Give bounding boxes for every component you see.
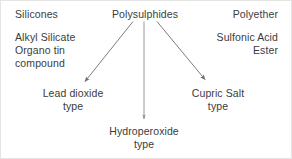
heading-polysulphides: Polysulphides xyxy=(112,8,178,21)
branch-hydroperoxide-line2: type xyxy=(109,138,179,151)
arrow-right-diagonal xyxy=(157,22,205,80)
branch-lead-dioxide-line2: type xyxy=(43,100,104,113)
left-item-compound: compound xyxy=(15,57,75,70)
branch-lead-dioxide-line1: Lead dioxide xyxy=(43,87,104,100)
branch-label-hydroperoxide: Hydroperoxide type xyxy=(109,125,179,151)
right-item-ester: Ester xyxy=(217,44,278,57)
heading-polyether: Polyether xyxy=(233,8,278,21)
left-column-items: Alkyl Silicate Organo tin compound xyxy=(15,31,75,70)
right-item-sulfonic-acid: Sulfonic Acid xyxy=(217,31,278,44)
diagram-canvas: Silicones Polysulphides Polyether Alkyl … xyxy=(0,0,292,159)
branch-cupric-salt-line2: type xyxy=(192,100,244,113)
branch-hydroperoxide-line1: Hydroperoxide xyxy=(109,125,179,138)
branch-label-lead-dioxide: Lead dioxide type xyxy=(43,87,104,113)
heading-silicones: Silicones xyxy=(15,8,58,21)
left-item-alkyl-silicate: Alkyl Silicate xyxy=(15,31,75,44)
branch-label-cupric-salt: Cupric Salt type xyxy=(192,87,244,113)
left-item-organo-tin: Organo tin xyxy=(15,44,75,57)
arrow-left-diagonal xyxy=(85,22,133,82)
right-column-items: Sulfonic Acid Ester xyxy=(217,31,278,57)
branch-cupric-salt-line1: Cupric Salt xyxy=(192,87,244,100)
